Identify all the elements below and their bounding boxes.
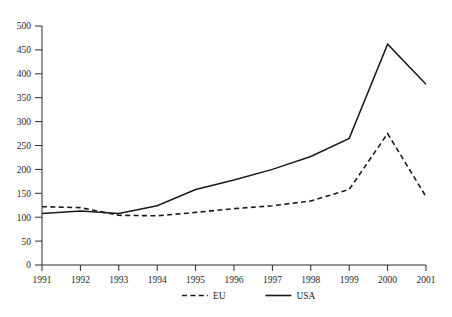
- chart-legend: EUUSA: [182, 291, 316, 301]
- x-tick-label: 1998: [301, 275, 320, 285]
- y-tick-label: 450: [17, 45, 32, 55]
- series-line-eu: [42, 134, 426, 216]
- y-tick-label: 350: [17, 93, 32, 103]
- y-tick-label: 250: [17, 141, 32, 151]
- x-tick-label: 1995: [186, 275, 205, 285]
- x-tick-label: 1996: [225, 275, 244, 285]
- series-line-usa: [42, 44, 426, 213]
- y-tick-label: 300: [17, 117, 32, 127]
- x-axis-ticks: 1991199219931994199519961997199819992000…: [33, 265, 436, 285]
- x-tick-label: 2001: [417, 275, 436, 285]
- y-tick-label: 400: [17, 69, 32, 79]
- x-tick-label: 1999: [340, 275, 359, 285]
- x-tick-label: 1994: [148, 275, 167, 285]
- series-group: [42, 44, 426, 216]
- y-tick-label: 100: [17, 213, 32, 223]
- y-tick-label: 0: [26, 260, 31, 270]
- x-tick-label: 1992: [71, 275, 90, 285]
- y-tick-label: 200: [17, 165, 32, 175]
- y-axis-ticks: 050100150200250300350400450500: [17, 21, 42, 270]
- legend-label-eu: EU: [213, 291, 226, 301]
- x-tick-label: 1991: [33, 275, 52, 285]
- y-tick-label: 150: [17, 189, 32, 199]
- legend-label-usa: USA: [296, 291, 315, 301]
- line-chart: 050100150200250300350400450500 199119921…: [0, 0, 452, 317]
- chart-canvas: 050100150200250300350400450500 199119921…: [0, 0, 452, 317]
- y-tick-label: 500: [17, 21, 32, 31]
- x-tick-label: 1993: [109, 275, 128, 285]
- x-tick-label: 1997: [263, 275, 282, 285]
- x-tick-label: 2000: [378, 275, 397, 285]
- y-tick-label: 50: [22, 237, 32, 247]
